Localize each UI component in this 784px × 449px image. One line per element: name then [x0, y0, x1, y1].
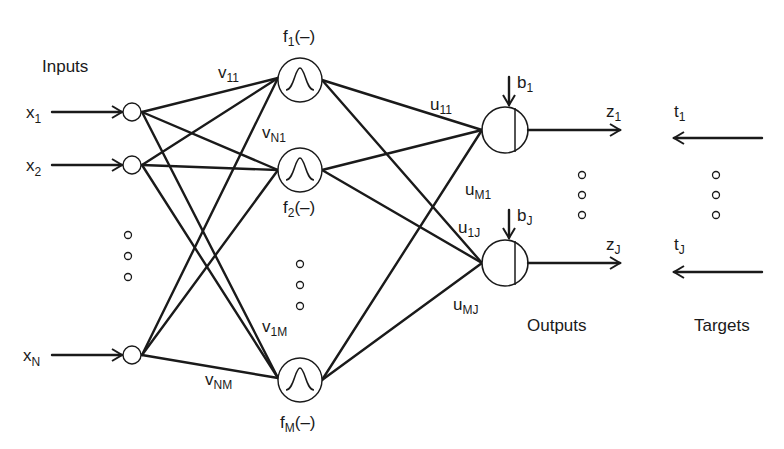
output-label: zJ — [606, 235, 621, 257]
target-ellipsis-icon — [713, 172, 720, 219]
bias-label: bJ — [517, 206, 532, 228]
output-node — [482, 240, 528, 286]
input-label: x1 — [26, 103, 42, 126]
bias-label: b1 — [517, 73, 533, 95]
inputs-heading: Inputs — [42, 57, 88, 76]
input-label: x2 — [26, 156, 42, 179]
input-hidden-edges — [142, 78, 278, 378]
hidden-node — [278, 148, 322, 192]
output-ellipsis-icon — [579, 172, 586, 219]
input-node — [123, 156, 141, 174]
hidden-label: fM(–) — [280, 413, 316, 435]
hidden-layer — [278, 58, 322, 402]
targets-heading: Targets — [694, 316, 750, 335]
weight-label: uM1 — [465, 180, 491, 202]
weight-label: uMJ — [453, 295, 478, 317]
hidden-label: f2(–) — [283, 198, 315, 220]
output-layer — [482, 77, 620, 286]
hidden-ellipsis-icon — [297, 261, 304, 310]
weight-label: u1J — [458, 218, 480, 240]
target-label: tJ — [674, 235, 685, 257]
target-label: t1 — [674, 102, 686, 124]
neural-network-diagram: Inputs Outputs Targets x1 x2 xN f1(–) f2… — [0, 0, 784, 449]
output-label: z1 — [606, 102, 622, 124]
weight-label: v1M — [262, 317, 287, 339]
input-node — [123, 346, 141, 364]
target-layer — [674, 138, 762, 272]
input-ellipsis-icon — [125, 232, 132, 281]
output-node — [482, 107, 528, 153]
outputs-heading: Outputs — [527, 316, 587, 335]
weight-label: v11 — [218, 63, 239, 85]
weight-label: u11 — [430, 95, 452, 117]
hidden-node — [278, 358, 322, 402]
input-node — [123, 103, 141, 121]
hidden-label: f1(–) — [283, 27, 315, 49]
labels: Inputs Outputs Targets x1 x2 xN f1(–) f2… — [23, 27, 750, 435]
input-layer — [52, 103, 141, 364]
input-label: xN — [23, 346, 40, 369]
hidden-node — [278, 58, 322, 102]
weight-label: vN1 — [262, 123, 286, 145]
weight-label: vNM — [205, 370, 232, 392]
